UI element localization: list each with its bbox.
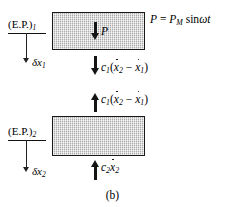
paren-close-down: ) [144,61,148,73]
x1-dot-up: x [135,94,140,106]
delta-x1-symbol: δx [32,56,42,68]
displacement-2-arrow-shaft [26,140,27,168]
displacement-2-label: δx2 [32,165,46,179]
internal-force-p-arrow-head [91,33,99,40]
equilibrium-position-2-line [8,140,46,141]
damper-force-1-up-label: c1(x2 − x1) [101,94,148,107]
equilibrium-position-1-line [8,33,46,34]
minus-up: − [123,93,135,105]
ep1-text: (E.P.) [8,18,32,30]
forcing-equation: P = PM sinωt [150,14,210,27]
x2-sub-bottom: 2 [115,166,119,175]
displacement-2-arrow-head [23,167,29,172]
delta-x2-subscript: 2 [42,170,46,179]
paren-close-up: ) [144,93,148,105]
equilibrium-position-2-label: (E.P.)2 [8,125,36,139]
ep1-subscript: 1 [32,23,36,32]
damper-force-1-down-arrow-head [91,68,99,75]
forcing-equals: = [157,13,169,25]
internal-force-p-label: P [101,26,108,38]
damper-force-2-label: c2x2 [101,162,119,175]
minus-down: − [123,61,135,73]
delta-x1-subscript: 1 [42,61,46,70]
x1-dot-down: x [135,62,140,74]
displacement-1-arrow-shaft [26,33,27,59]
damper-force-1-down-label: c1(x2 − x1) [101,62,148,75]
equilibrium-position-1-label: (E.P.)1 [8,18,36,32]
ep2-text: (E.P.) [8,125,32,137]
x2-dot-down: x [114,62,119,74]
forcing-time: t [207,13,210,25]
damper-force-2-arrow-shaft [94,166,97,180]
x2-dot-bottom: x [110,162,115,174]
forcing-sin: sin [186,13,199,25]
forcing-lhs: P [150,13,157,25]
free-body-diagram: P P = PM sinωt (E.P.)1 δx1 c1(x2 − x1) c… [0,0,225,207]
displacement-1-label: δx1 [32,56,46,70]
figure-caption: (b) [0,189,225,201]
x2-dot-up: x [114,94,119,106]
lower-mass-block [52,116,145,156]
ep2-subscript: 2 [32,130,36,139]
upper-mass-block [52,12,145,50]
damper-force-1-up-arrow-shaft [94,99,97,112]
forcing-amplitude-subscript: M [176,18,183,27]
delta-x2-symbol: δx [32,165,42,177]
displacement-1-arrow-head [23,58,29,63]
